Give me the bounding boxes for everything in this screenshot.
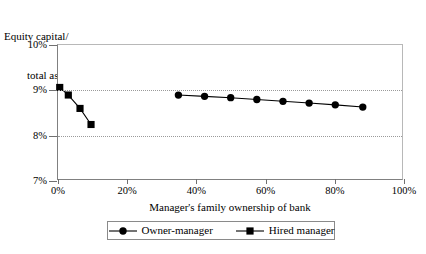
x-axis-tick-label: 40% <box>187 186 206 197</box>
y-axis-tick-label: 8% <box>33 130 47 141</box>
series-layer <box>58 45 402 179</box>
x-axis-tick <box>196 179 197 184</box>
data-point-circle <box>175 91 182 98</box>
x-axis-tick <box>58 179 59 184</box>
gridline-y <box>58 136 402 137</box>
data-point-square <box>87 121 94 128</box>
x-axis-tick <box>335 179 336 184</box>
data-point-circle <box>227 94 234 101</box>
chart-legend: Owner-managerHired manager <box>107 221 335 240</box>
x-axis-tick <box>127 179 128 184</box>
data-point-circle <box>332 101 339 108</box>
data-point-circle <box>201 93 208 100</box>
legend-label: Hired manager <box>269 225 335 236</box>
x-axis-tick-label: 100% <box>392 186 417 197</box>
y-axis-tick-label: 10% <box>28 40 47 51</box>
y-axis-tick <box>49 90 57 91</box>
plot-area: 7%8%9%10%0%20%40%60%80%100% <box>57 44 403 180</box>
legend-marker-square-icon <box>235 225 265 237</box>
data-point-square <box>76 105 83 112</box>
y-axis-title-line1: Equity capital/ <box>2 30 114 43</box>
legend-item-hired-manager[interactable]: Hired manager <box>235 225 335 237</box>
chart-container: Equity capital/ total assets 7%8%9%10%0%… <box>0 0 426 254</box>
y-axis-tick-label: 9% <box>33 85 47 96</box>
legend-label: Owner-manager <box>142 225 213 236</box>
y-axis-tick <box>49 181 57 182</box>
data-point-circle <box>305 99 312 106</box>
gridline-y <box>58 90 402 91</box>
x-axis-title: Manager's family ownership of bank <box>57 201 403 213</box>
x-axis-tick <box>266 179 267 184</box>
legend-item-owner-manager[interactable]: Owner-manager <box>108 225 213 237</box>
data-point-square <box>65 91 72 98</box>
series-owner-manager <box>175 91 367 110</box>
x-axis-tick-label: 80% <box>325 186 344 197</box>
x-axis-tick-label: 20% <box>118 186 137 197</box>
y-axis-tick-label: 7% <box>33 176 47 187</box>
data-point-circle <box>279 98 286 105</box>
data-point-circle <box>359 103 366 110</box>
x-axis-tick-label: 60% <box>256 186 275 197</box>
y-axis-tick <box>49 45 57 46</box>
y-axis-tick <box>49 136 57 137</box>
series-line <box>60 87 91 124</box>
legend-marker-circle-icon <box>108 225 138 237</box>
x-axis-tick <box>404 179 405 184</box>
data-point-circle <box>253 96 260 103</box>
x-axis-tick-label: 0% <box>51 186 65 197</box>
